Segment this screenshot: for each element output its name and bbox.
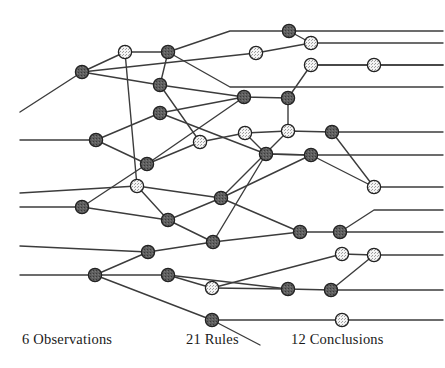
graph-node-light	[238, 126, 251, 139]
graph-node-dark	[281, 282, 294, 295]
graph-node-dark	[161, 45, 174, 58]
graph-node-light	[335, 313, 348, 326]
graph-node-light	[367, 248, 380, 261]
graph-node-dark	[153, 78, 166, 91]
graph-node-light	[118, 45, 131, 58]
graph-node-light	[304, 58, 317, 71]
graph-node-dark	[333, 225, 346, 238]
graph-node-dark	[205, 313, 218, 326]
graph-node-light	[130, 179, 143, 192]
graph-node-light	[281, 124, 294, 137]
graph-node-dark	[141, 245, 154, 258]
graph-node-dark	[293, 225, 306, 238]
graph-node-dark	[282, 24, 295, 37]
graph-node-dark	[88, 268, 101, 281]
rule-network-figure: 6 Observations 21 Rules 12 Conclusions	[0, 0, 445, 368]
graph-node-dark	[304, 148, 317, 161]
graph-node-light	[335, 247, 348, 260]
graph-node-dark	[206, 235, 219, 248]
graph-node-dark	[153, 106, 166, 119]
graph-node-light	[205, 281, 218, 294]
graph-node-dark	[161, 268, 174, 281]
graph-node-light	[367, 180, 380, 193]
graph-node-dark	[214, 191, 227, 204]
graph-node-dark	[259, 147, 272, 160]
network-graph	[0, 0, 445, 368]
graph-edge	[212, 288, 288, 289]
graph-node-light	[304, 36, 317, 49]
graph-node-light	[367, 58, 380, 71]
graph-node-dark	[281, 91, 294, 104]
graph-node-dark	[140, 157, 153, 170]
graph-node-light	[193, 135, 206, 148]
graph-node-light	[249, 46, 262, 59]
graph-node-dark	[161, 213, 174, 226]
graph-node-dark	[324, 283, 337, 296]
graph-node-dark	[75, 200, 88, 213]
graph-node-dark	[89, 133, 102, 146]
graph-node-dark	[237, 90, 250, 103]
graph-node-dark	[325, 125, 338, 138]
graph-node-dark	[75, 65, 88, 78]
